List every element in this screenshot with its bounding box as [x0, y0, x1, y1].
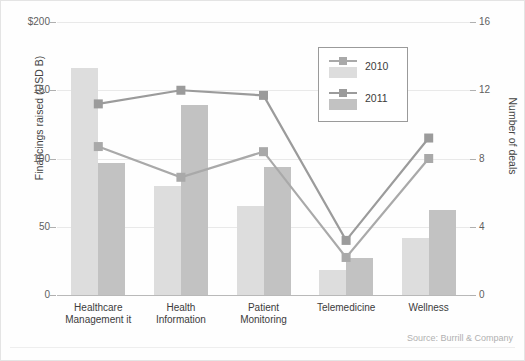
- y-axis-left-tick: 0: [4, 289, 50, 300]
- y-axis-left-tick-mark: [50, 227, 56, 228]
- chart-legend: 20102011: [318, 47, 408, 122]
- legend-line-swatch: [329, 56, 357, 65]
- y-axis-left-tick: 150: [4, 84, 50, 95]
- gridline: [57, 22, 470, 23]
- legend-marker: [339, 89, 347, 97]
- y-axis-right-tick-mark: [470, 227, 476, 228]
- x-axis-label-line: Monitoring: [204, 314, 324, 326]
- y-axis-left-tick-mark: [50, 295, 56, 296]
- bar-2011-0: [98, 163, 125, 295]
- y-axis-right-tick: 0: [479, 289, 519, 300]
- bar-2011-2: [264, 167, 291, 295]
- legend-bar-swatch: [329, 67, 357, 78]
- legend-line-swatch: [329, 88, 357, 97]
- legend-item-2010: 2010: [327, 55, 405, 81]
- y-axis-left-tick-mark: [50, 159, 56, 160]
- y-axis-left-tick: $200: [4, 16, 50, 27]
- y-axis-left-tick-mark: [50, 22, 56, 23]
- y-axis-left-title: Financings raised (USD B): [33, 33, 45, 203]
- bar-2010-0: [71, 68, 98, 295]
- bar-2011-1: [181, 105, 208, 295]
- gridline: [57, 90, 470, 91]
- y-axis-right-tick-mark: [470, 295, 476, 296]
- legend-marker: [339, 57, 347, 65]
- bar-2011-4: [429, 210, 456, 295]
- legend-label: 2011: [365, 92, 388, 104]
- chart-title-clipped: [120, 0, 400, 5]
- bar-2010-4: [402, 238, 429, 295]
- legend-label: 2010: [365, 60, 388, 72]
- source-note: Source: Burrill & Company: [407, 333, 513, 343]
- footer-divider: [10, 347, 515, 348]
- bar-2010-2: [237, 206, 264, 295]
- bar-2011-3: [346, 258, 373, 295]
- y-axis-right-tick: 4: [479, 221, 519, 232]
- legend-item-2011: 2011: [327, 87, 405, 113]
- x-axis-label-4: Wellness: [369, 302, 489, 314]
- y-axis-right-tick: 8: [479, 153, 519, 164]
- y-axis-left-tick: 50: [4, 221, 50, 232]
- y-axis-right-tick-mark: [470, 159, 476, 160]
- legend-bar-swatch: [329, 99, 357, 110]
- y-axis-left-tick-mark: [50, 90, 56, 91]
- gridline: [57, 295, 470, 296]
- bar-2010-3: [319, 270, 346, 295]
- bar-2010-1: [154, 186, 181, 295]
- chart-container: Financings raised (USD B) Number of deal…: [0, 0, 525, 361]
- plot-area: [57, 22, 470, 295]
- y-axis-left-tick: 100: [4, 153, 50, 164]
- gridline: [57, 159, 470, 160]
- y-axis-right-tick: 16: [479, 16, 519, 27]
- y-axis-right-tick-mark: [470, 22, 476, 23]
- y-axis-right-tick: 12: [479, 84, 519, 95]
- x-axis-label-line: Wellness: [369, 302, 489, 314]
- y-axis-right-tick-mark: [470, 90, 476, 91]
